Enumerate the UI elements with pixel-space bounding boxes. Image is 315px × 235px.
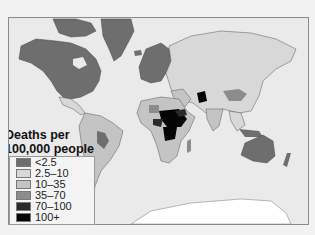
swatch-icon xyxy=(16,202,31,211)
region-north-america xyxy=(19,39,101,99)
region-greenland xyxy=(101,19,134,61)
legend-title-line1: Deaths per xyxy=(8,128,94,142)
legend-title-line2: 100,000 people xyxy=(8,142,94,156)
legend-title: Deaths per 100,000 people xyxy=(8,128,94,156)
legend-item: 100+ xyxy=(16,212,94,223)
region-central-america xyxy=(59,97,85,115)
region-australia xyxy=(241,135,275,163)
swatch-icon xyxy=(16,180,31,189)
swatch-icon xyxy=(16,169,31,178)
region-europe xyxy=(139,43,171,83)
swatch-icon xyxy=(16,191,31,200)
swatch-icon xyxy=(16,158,31,167)
region-antarctica xyxy=(131,199,291,224)
legend: <2.5 2.5–10 10–35 35–70 70–100 100+ xyxy=(9,156,95,225)
swatch-icon xyxy=(16,213,31,222)
legend-label: 100+ xyxy=(35,212,60,223)
